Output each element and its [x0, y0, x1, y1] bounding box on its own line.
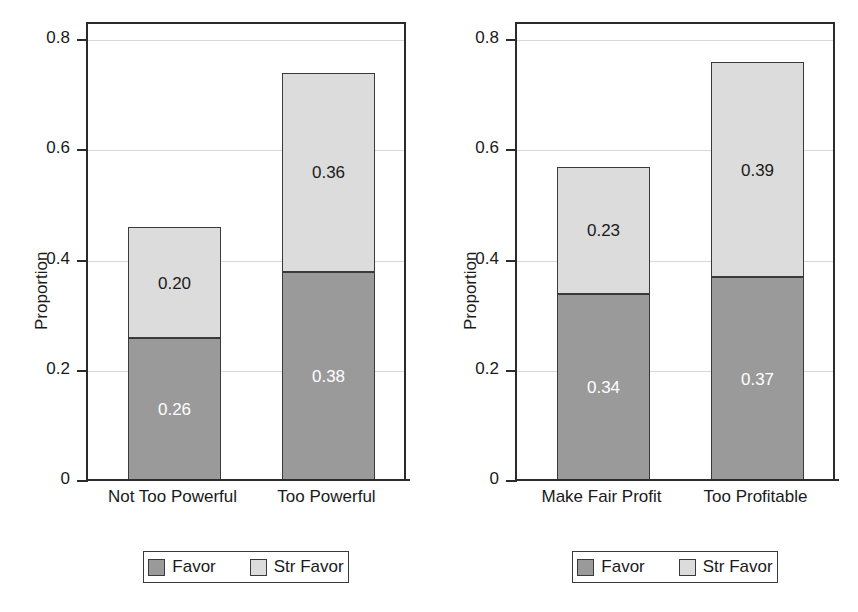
gridline [88, 40, 404, 41]
bar-segment-favor: 0.26 [128, 338, 221, 481]
x-axis-line [86, 479, 410, 481]
legend-label: Favor [172, 557, 215, 577]
bar-segment-favor: 0.37 [711, 277, 804, 481]
y-axis-tick-label: 0.6 [475, 138, 499, 158]
y-axis-tick [77, 39, 88, 41]
x-axis-line [515, 479, 839, 481]
bar-value-label-str-favor: 0.23 [558, 221, 649, 241]
x-axis-category-label: Too Profitable [679, 487, 832, 507]
y-axis-tick [506, 370, 517, 372]
legend-item: Favor [577, 557, 644, 577]
bar-value-label-favor: 0.34 [558, 378, 649, 398]
y-axis-tick [506, 149, 517, 151]
legend-item: Str Favor [250, 557, 344, 577]
plot-area: 0.260.200.380.36 [86, 22, 406, 479]
bar-stack: 0.380.36 [282, 73, 375, 481]
y-axis-tick [77, 260, 88, 262]
bar-value-label-str-favor: 0.20 [129, 274, 220, 294]
bar-segment-favor: 0.38 [282, 272, 375, 481]
legend-item: Str Favor [679, 557, 773, 577]
bar-stack: 0.260.20 [128, 227, 221, 481]
bar-segment-str-favor: 0.23 [557, 167, 650, 294]
bar-value-label-favor: 0.26 [129, 400, 220, 420]
bar-value-label-favor: 0.38 [283, 367, 374, 387]
legend: FavorStr Favor [572, 551, 778, 583]
bar-value-label-str-favor: 0.36 [283, 163, 374, 183]
y-axis-title: Proportion [461, 252, 481, 330]
legend: FavorStr Favor [143, 551, 349, 583]
legend-item: Favor [148, 557, 215, 577]
bar-segment-favor: 0.34 [557, 294, 650, 481]
bar-value-label-favor: 0.37 [712, 370, 803, 390]
bar-segment-str-favor: 0.20 [128, 227, 221, 337]
x-axis-category-label: Not Too Powerful [96, 487, 249, 507]
y-axis-title: Proportion [32, 252, 52, 330]
bar-value-label-str-favor: 0.39 [712, 161, 803, 181]
legend-label: Str Favor [274, 557, 344, 577]
y-axis-tick [77, 370, 88, 372]
y-axis-tick-label: 0 [61, 469, 70, 489]
legend-label: Favor [601, 557, 644, 577]
y-axis-tick [77, 149, 88, 151]
legend-label: Str Favor [703, 557, 773, 577]
x-axis-category-label: Too Powerful [250, 487, 403, 507]
bar-stack: 0.370.39 [711, 62, 804, 481]
y-axis-tick-label: 0 [490, 469, 499, 489]
x-axis-category-label: Make Fair Profit [525, 487, 678, 507]
plot-area: 0.340.230.370.39 [515, 22, 835, 479]
bar-segment-str-favor: 0.39 [711, 62, 804, 277]
y-axis-tick-label: 0.2 [475, 359, 499, 379]
legend-swatch-str-favor-icon [250, 559, 267, 576]
legend-swatch-favor-icon [148, 559, 165, 576]
y-axis-tick-label: 0.2 [46, 359, 70, 379]
y-axis-tick [506, 260, 517, 262]
y-axis-tick-label: 0.6 [46, 138, 70, 158]
bar-stack: 0.340.23 [557, 167, 650, 481]
chart-panel-left: 00.20.40.60.8Not Too PowerfulToo Powerfu… [0, 0, 429, 612]
y-axis-tick-label: 0.8 [475, 28, 499, 48]
legend-swatch-str-favor-icon [679, 559, 696, 576]
gridline [517, 40, 833, 41]
y-axis-tick [506, 39, 517, 41]
bar-segment-str-favor: 0.36 [282, 73, 375, 271]
chart-figure: 00.20.40.60.8Not Too PowerfulToo Powerfu… [0, 0, 858, 612]
y-axis-tick-label: 0.8 [46, 28, 70, 48]
chart-panel-right: 00.20.40.60.8Make Fair ProfitToo Profita… [429, 0, 858, 612]
legend-swatch-favor-icon [577, 559, 594, 576]
